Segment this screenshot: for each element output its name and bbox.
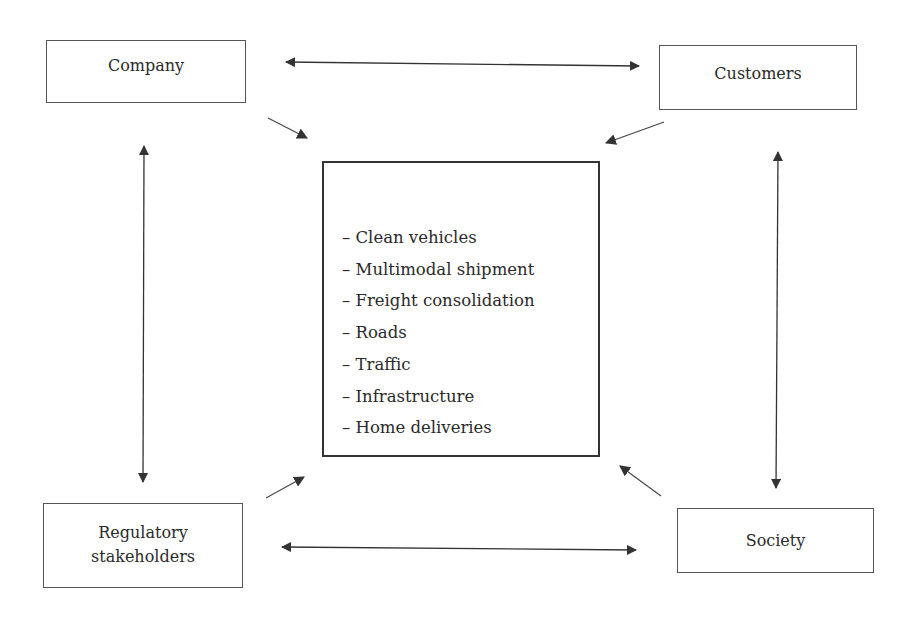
arrow-regulatory-center bbox=[266, 477, 304, 498]
arrow-customers-center bbox=[606, 122, 664, 143]
factor-item: – Roads bbox=[342, 317, 535, 349]
factor-item: – Home deliveries bbox=[342, 412, 535, 444]
node-company-label: Company bbox=[47, 55, 245, 76]
node-society-label: Society bbox=[678, 530, 873, 551]
factor-item: – Infrastructure bbox=[342, 381, 535, 413]
node-regulatory-label-line2: stakeholders bbox=[44, 546, 242, 567]
node-regulatory-label-line1: Regulatory bbox=[44, 522, 242, 543]
factor-item: – Traffic bbox=[342, 349, 535, 381]
node-company: Company bbox=[46, 40, 246, 103]
arrow-company-regulatory bbox=[143, 146, 144, 482]
node-society: Society bbox=[677, 508, 874, 573]
center-factors-box: – Clean vehicles – Multimodal shipment –… bbox=[322, 161, 600, 457]
arrow-company-center bbox=[268, 118, 307, 138]
arrow-society-center bbox=[620, 466, 661, 496]
arrow-regulatory-society bbox=[282, 547, 636, 550]
factor-item: – Clean vehicles bbox=[342, 222, 535, 254]
factor-item: – Freight consolidation bbox=[342, 285, 535, 317]
node-customers-label: Customers bbox=[660, 63, 856, 84]
node-customers: Customers bbox=[659, 45, 857, 110]
factors-list: – Clean vehicles – Multimodal shipment –… bbox=[342, 222, 535, 444]
arrow-company-customers bbox=[286, 62, 639, 66]
node-regulatory-stakeholders: Regulatory stakeholders bbox=[43, 503, 243, 588]
factor-item: – Multimodal shipment bbox=[342, 254, 535, 286]
arrow-customers-society bbox=[776, 152, 778, 488]
